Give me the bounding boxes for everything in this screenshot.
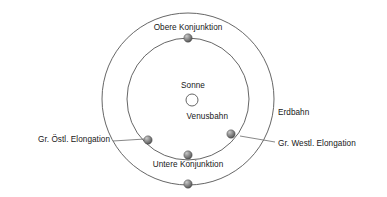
label-erdbahn: Erdbahn bbox=[278, 108, 309, 118]
label-obere-konjunktion: Obere Konjunktion bbox=[154, 23, 223, 33]
label-gr-westl-elongation: Gr. Westl. Elongation bbox=[278, 139, 356, 149]
marker-erde bbox=[184, 180, 192, 188]
label-venusbahn: Venusbahn bbox=[187, 112, 228, 122]
marker-untere-konjunktion bbox=[184, 151, 192, 159]
leader-line-gr-oestl-elongation bbox=[113, 139, 145, 141]
venus-orbit-diagram: Obere Konjunktion Sonne Venusbahn Erdbah… bbox=[0, 0, 387, 197]
marker-gr-westl-elongation bbox=[227, 130, 235, 138]
marker-gr-oestl-elongation bbox=[144, 136, 152, 144]
sun-symbol bbox=[186, 94, 198, 106]
label-sonne: Sonne bbox=[181, 81, 205, 91]
label-gr-oestl-elongation: Gr. Östl. Elongation bbox=[38, 135, 110, 145]
label-untere-konjunktion: Untere Konjunktion bbox=[153, 160, 224, 170]
marker-obere-konjunktion bbox=[184, 34, 192, 42]
leader-line-gr-westl-elongation bbox=[240, 136, 275, 142]
